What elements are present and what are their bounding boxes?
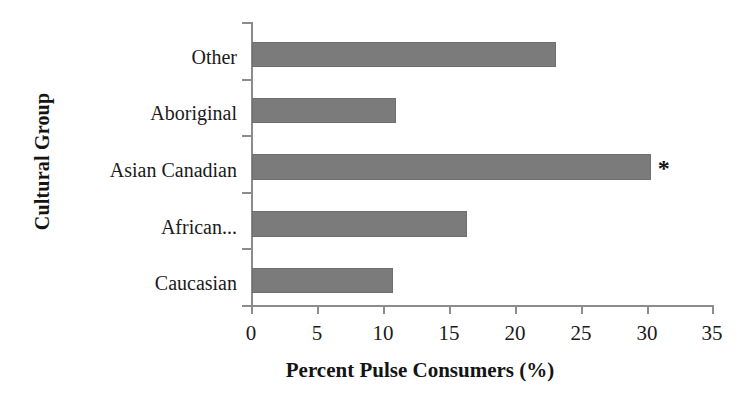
x-axis-tick-label: 25	[561, 321, 601, 346]
y-axis-tick	[242, 79, 251, 81]
y-axis-label-caucasian: Caucasian	[155, 273, 237, 293]
x-axis-title: Percent Pulse Consumers (%)	[180, 358, 660, 383]
x-axis-tick	[581, 305, 583, 314]
x-axis-tick	[251, 305, 253, 314]
x-axis-tick	[449, 305, 451, 314]
y-axis-label-aboriginal: Aboriginal	[150, 103, 237, 123]
bar-chart-figure: Cultural Group Other Aboriginal Asian Ca…	[0, 0, 745, 413]
x-axis-tick-label: 5	[297, 321, 337, 346]
y-axis-tick	[242, 248, 251, 250]
plot-area: Other Aboriginal Asian Canadian African.…	[251, 22, 713, 305]
x-axis-line	[251, 305, 714, 307]
x-axis-tick	[712, 305, 714, 314]
bar-other[interactable]	[252, 42, 556, 67]
x-axis-tick	[317, 305, 319, 314]
y-axis-label-african: African...	[161, 217, 237, 237]
y-axis-tick	[242, 192, 251, 194]
bar-asian-canadian[interactable]	[252, 154, 651, 180]
x-axis-tick-label: 10	[363, 321, 403, 346]
y-axis-label-asian-canadian: Asian Canadian	[110, 160, 237, 180]
bar-african[interactable]	[252, 211, 467, 237]
bar-caucasian[interactable]	[252, 268, 393, 293]
x-axis-tick	[647, 305, 649, 314]
y-axis-title: Cultural Group	[31, 32, 54, 292]
x-axis-tick-label: 15	[429, 321, 469, 346]
x-axis-tick-label: 35	[692, 321, 732, 346]
x-axis-tick-label: 0	[231, 321, 271, 346]
y-axis-label-other: Other	[191, 47, 237, 67]
x-axis-tick	[383, 305, 385, 314]
y-axis-tick	[242, 22, 251, 24]
bar-aboriginal[interactable]	[252, 98, 396, 123]
x-axis-tick-label: 30	[627, 321, 667, 346]
x-axis-tick-label: 20	[495, 321, 535, 346]
y-axis-tick	[242, 135, 251, 137]
y-axis-tick	[242, 305, 251, 307]
significance-asterisk: *	[658, 156, 670, 180]
x-axis-tick	[515, 305, 517, 314]
